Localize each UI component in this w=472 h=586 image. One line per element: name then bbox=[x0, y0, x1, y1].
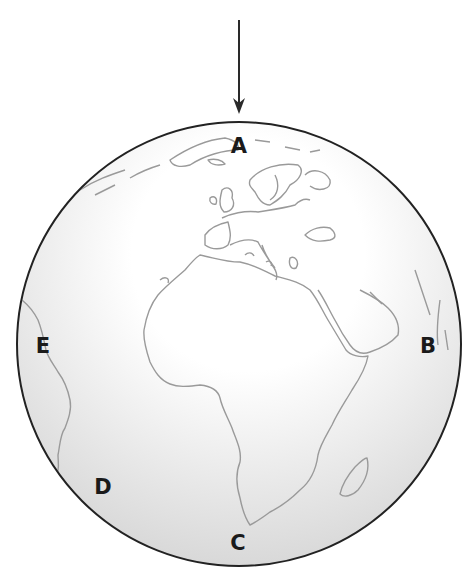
globe-body bbox=[17, 122, 461, 566]
globe-svg bbox=[0, 0, 472, 586]
point-label-a: A bbox=[231, 136, 247, 157]
point-label-e: E bbox=[36, 336, 50, 357]
globe-diagram: A B C D E bbox=[0, 0, 472, 586]
point-label-c: C bbox=[230, 533, 245, 554]
sunlight-arrow bbox=[233, 20, 245, 114]
point-label-b: B bbox=[420, 336, 436, 357]
point-label-d: D bbox=[94, 477, 111, 498]
